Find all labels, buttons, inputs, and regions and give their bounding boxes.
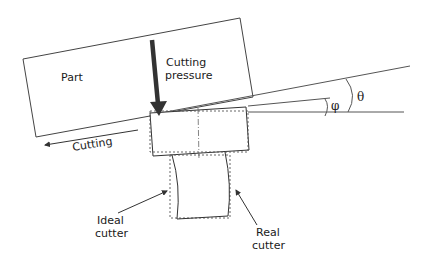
phi-label: φ <box>331 99 339 113</box>
ideal-cutter-label-line2: cutter <box>95 227 128 240</box>
theta-arc <box>346 79 353 112</box>
real-cutter-label-line1: Real <box>256 226 280 239</box>
real-cutter-head <box>150 107 249 156</box>
cutting-label: Cutting <box>71 135 113 154</box>
ideal-cutter-label-line1: Ideal <box>97 214 124 227</box>
phi-arc <box>325 99 328 116</box>
real-cutter-label-line2: cutter <box>252 239 285 252</box>
real-cutter-pointer <box>236 190 257 225</box>
ideal-cutter-pointer <box>118 191 167 213</box>
cutting-diagram: Part Cutting pressure Cutting Ideal cutt… <box>0 0 428 259</box>
cutting-pressure-label-line1: Cutting <box>166 56 206 69</box>
phi-line <box>248 98 330 106</box>
cutting-pressure-arrow-shaft <box>152 40 158 104</box>
theta-label: θ <box>357 90 364 104</box>
cutting-pressure-label-line2: pressure <box>165 69 213 82</box>
part-label: Part <box>61 71 83 84</box>
ideal-cutter-body <box>170 155 230 218</box>
real-cutter-body <box>172 152 229 219</box>
